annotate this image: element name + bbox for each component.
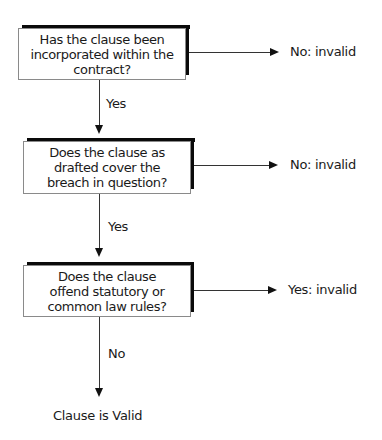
decision-2-question: Does the clause as drafted cover the bre… xyxy=(47,145,167,190)
decision-1-question: Has the clause been incorporated within … xyxy=(31,32,174,77)
decision-3-right-label: Yes: invalid xyxy=(288,282,357,297)
arrow-3-right-head-icon xyxy=(268,286,277,294)
outcome-label: Clause is Valid xyxy=(53,408,142,423)
decision-1-down-label: Yes xyxy=(106,96,126,111)
decision-1-right-label: No: invalid xyxy=(290,44,356,59)
arrow-3-down-head-icon xyxy=(95,388,103,397)
arrow-2-right-line xyxy=(194,165,270,166)
flowchart-canvas: Has the clause been incorporated within … xyxy=(0,0,382,440)
arrow-3-down-line xyxy=(99,317,100,390)
decision-2-right-label: No: invalid xyxy=(290,157,356,172)
decision-2-down-label: Yes xyxy=(108,219,128,234)
arrow-1-down-head-icon xyxy=(95,125,103,134)
arrow-2-down-line xyxy=(99,194,100,250)
arrow-1-right-line xyxy=(189,52,271,53)
decision-3-down-label: No xyxy=(108,346,125,361)
decision-box-3: Does the clause offend statutory or comm… xyxy=(23,265,191,317)
arrow-2-right-head-icon xyxy=(269,161,278,169)
decision-box-2: Does the clause as drafted cover the bre… xyxy=(23,141,191,194)
decision-3-question: Does the clause offend statutory or comm… xyxy=(47,269,166,314)
arrow-3-right-line xyxy=(194,290,269,291)
decision-box-1: Has the clause been incorporated within … xyxy=(18,28,186,80)
arrow-1-right-head-icon xyxy=(270,48,279,56)
arrow-1-down-line xyxy=(99,80,100,127)
arrow-2-down-head-icon xyxy=(95,248,103,257)
